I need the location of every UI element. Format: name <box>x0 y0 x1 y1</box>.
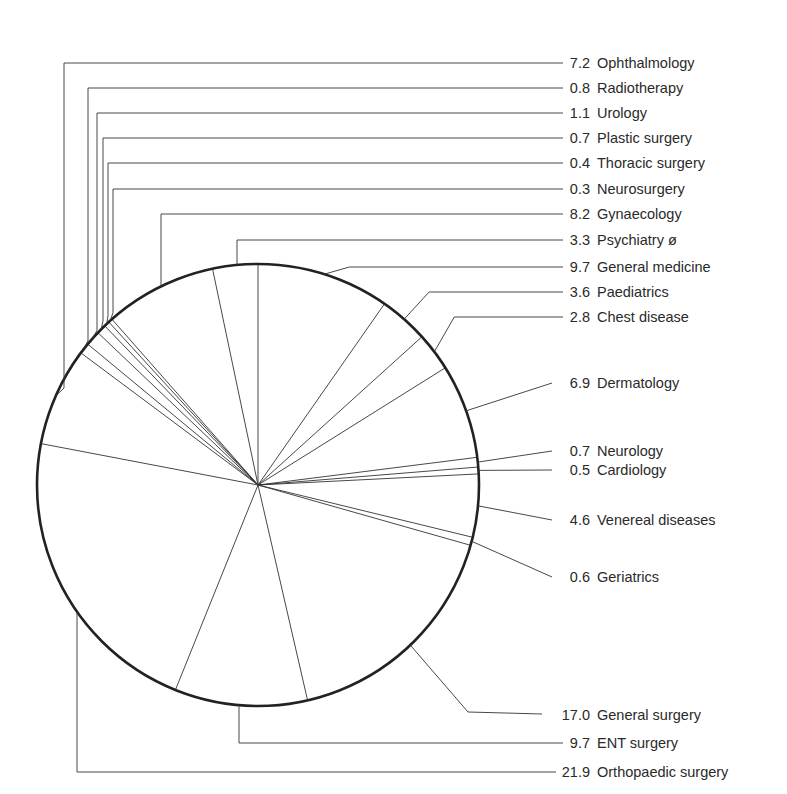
label-value: 6.9 <box>560 375 590 391</box>
leader-line <box>110 189 563 321</box>
label-value: 0.7 <box>560 443 590 459</box>
label-value: 8.2 <box>560 206 590 222</box>
leader-line <box>239 705 563 743</box>
leader-line <box>472 541 552 577</box>
leader-line <box>237 240 563 265</box>
slice-divider <box>258 304 385 485</box>
legend-label: 7.2Ophthalmology <box>560 55 695 71</box>
slice-dividers <box>41 264 479 700</box>
label-text: Venereal diseases <box>597 512 716 528</box>
leader-line <box>84 88 563 349</box>
label-value: 9.7 <box>560 259 590 275</box>
label-value: 7.2 <box>560 55 590 71</box>
leader-line <box>107 163 563 324</box>
label-text: Radiotherapy <box>597 80 683 96</box>
label-text: Geriatrics <box>597 569 659 585</box>
leader-line <box>478 506 552 520</box>
leader-line <box>93 113 563 338</box>
slice-divider <box>258 485 473 537</box>
label-text: Gynaecology <box>597 206 682 222</box>
label-text: Dermatology <box>597 375 679 391</box>
slice-divider <box>258 337 422 485</box>
legend-label: 21.9Orthopaedic surgery <box>560 764 728 780</box>
label-value: 1.1 <box>560 105 590 121</box>
label-text: Chest disease <box>597 309 689 325</box>
label-value: 4.6 <box>560 512 590 528</box>
label-value: 9.7 <box>560 735 590 751</box>
legend-label: 0.7Plastic surgery <box>560 130 692 146</box>
label-value: 0.6 <box>560 569 590 585</box>
leader-line <box>161 214 563 286</box>
leader-line <box>324 267 563 274</box>
slice-divider <box>258 457 477 485</box>
legend-label: 6.9Dermatology <box>560 375 679 391</box>
legend-label: 3.6Paediatrics <box>560 284 669 300</box>
label-value: 0.8 <box>560 80 590 96</box>
legend-label: 0.3Neurosurgery <box>560 181 685 197</box>
legend-label: 0.4Thoracic surgery <box>560 155 705 171</box>
legend-label: 9.7ENT surgery <box>560 735 678 751</box>
label-value: 21.9 <box>560 764 590 780</box>
label-text: Neurosurgery <box>597 181 685 197</box>
slice-divider <box>258 485 308 700</box>
slice-divider <box>258 368 445 485</box>
pie-chart <box>0 0 787 794</box>
legend-label: 4.6Venereal diseases <box>560 512 716 528</box>
label-text: Urology <box>597 105 647 121</box>
label-value: 0.5 <box>560 462 590 478</box>
label-text: Thoracic surgery <box>597 155 705 171</box>
label-text: Psychiatry ø <box>597 232 677 248</box>
label-value: 3.6 <box>560 284 590 300</box>
leader-line <box>77 612 556 772</box>
leader-line <box>101 138 563 329</box>
label-text: Neurology <box>597 443 663 459</box>
slice-divider <box>98 333 258 485</box>
legend-label: 8.2Gynaecology <box>560 206 682 222</box>
legend-label: 0.8Radiotherapy <box>560 80 683 96</box>
label-text: Orthopaedic surgery <box>597 764 728 780</box>
leader-line <box>434 317 563 352</box>
leader-line <box>466 383 552 411</box>
label-text: Ophthalmology <box>597 55 695 71</box>
slice-divider <box>105 326 258 485</box>
legend-label: 9.7General medicine <box>560 259 711 275</box>
slice-divider <box>81 353 258 485</box>
legend-label: 0.5Cardiology <box>560 462 666 478</box>
label-text: General surgery <box>597 707 701 723</box>
leader-line <box>478 451 552 462</box>
legend-label: 17.0General surgery <box>560 707 701 723</box>
label-value: 2.8 <box>560 309 590 325</box>
label-text: Plastic surgery <box>597 130 692 146</box>
leader-line <box>404 292 563 319</box>
slice-divider <box>112 319 258 485</box>
legend-label: 0.7Neurology <box>560 443 663 459</box>
leader-line <box>410 645 542 714</box>
label-value: 17.0 <box>560 707 590 723</box>
legend-label: 2.8Chest disease <box>560 309 689 325</box>
slice-divider <box>175 485 258 690</box>
label-text: ENT surgery <box>597 735 678 751</box>
label-text: Paediatrics <box>597 284 669 300</box>
label-text: Cardiology <box>597 462 666 478</box>
label-value: 0.3 <box>560 181 590 197</box>
label-value: 0.4 <box>560 155 590 171</box>
legend-label: 3.3Psychiatry ø <box>560 232 677 248</box>
legend-label: 1.1Urology <box>560 105 647 121</box>
label-value: 3.3 <box>560 232 590 248</box>
slice-divider <box>258 485 471 545</box>
legend-label: 0.6Geriatrics <box>560 569 659 585</box>
label-value: 0.7 <box>560 130 590 146</box>
label-text: General medicine <box>597 259 711 275</box>
